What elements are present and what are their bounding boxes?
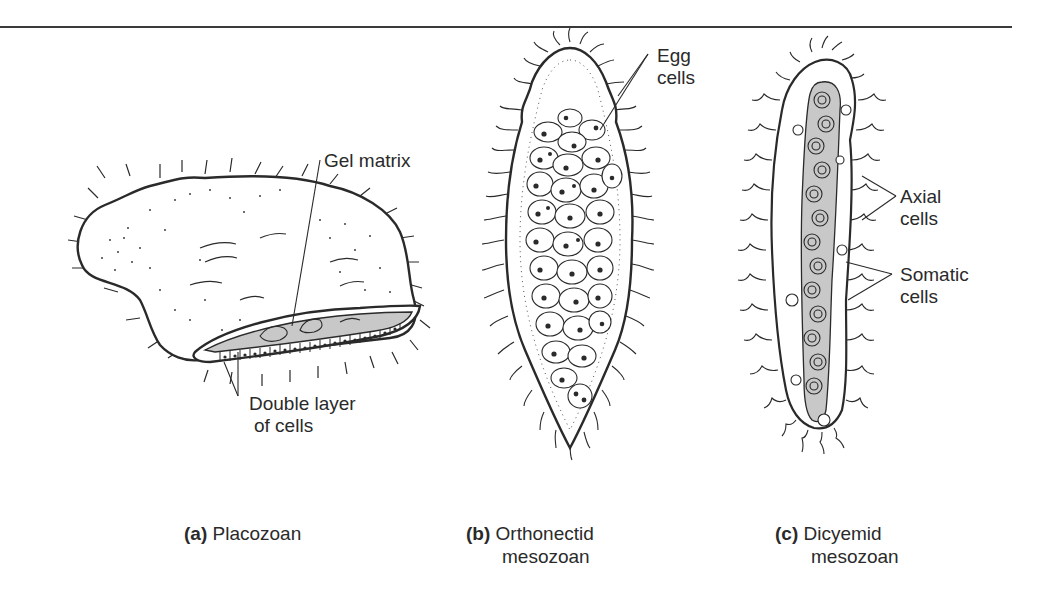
caption-letter: (b) [466, 523, 490, 544]
label-somatic-cells: Somatic cells [900, 264, 969, 308]
caption-name: Dicyemid [804, 523, 882, 544]
caption-name: Placozoan [213, 523, 302, 544]
caption-name-line2: mesozoan [466, 545, 594, 568]
orthonectid-drawing [482, 28, 654, 460]
caption-placozoan: (a) Placozoan [184, 522, 301, 545]
label-egg-cells: Egg cells [657, 45, 695, 89]
label-double-layer-of-cells: Double layer of cells [249, 393, 356, 437]
diagram-artwork [0, 0, 1054, 602]
caption-name: Orthonectid [496, 523, 594, 544]
caption-letter: (c) [775, 523, 798, 544]
label-gel-matrix: Gel matrix [324, 150, 411, 172]
placozoan-drawing [68, 158, 430, 396]
caption-letter: (a) [184, 523, 207, 544]
caption-dicyemid-mesozoan: (c) Dicyemid mesozoan [775, 522, 899, 568]
dicyemid-drawing [738, 36, 896, 454]
caption-orthonectid-mesozoan: (b) Orthonectid mesozoan [466, 522, 594, 568]
caption-name-line2: mesozoan [775, 545, 899, 568]
label-axial-cells: Axial cells [900, 186, 941, 230]
